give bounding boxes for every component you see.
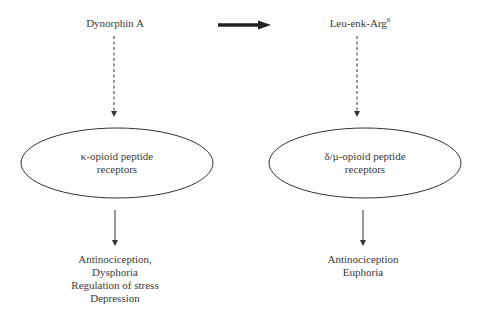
kappa-receptor-line1: κ-opioid peptide (57, 150, 177, 163)
delta-mu-receptor-label: δ/μ-opioid peptide receptors (305, 150, 425, 176)
leu-enk-arg-superscript: 6 (387, 16, 391, 24)
leu-enk-arg6-label: Leu-enk-Arg6 (305, 17, 415, 30)
delta-mu-receptor-line1: δ/μ-opioid peptide (305, 150, 425, 163)
effect-item: Euphoria (298, 266, 428, 279)
effect-item: Antinociception, (50, 253, 180, 266)
dynorphin-a-label: Dynorphin A (65, 17, 165, 30)
solid-arrow-right (360, 210, 366, 246)
effect-item: Dysphoria (50, 266, 180, 279)
delta-mu-effects-list: Antinociception Euphoria (298, 253, 428, 279)
dashed-arrow-right (354, 36, 360, 117)
kappa-effects-list: Antinociception, Dysphoria Regulation of… (50, 253, 180, 305)
delta-mu-receptor-line2: receptors (305, 163, 425, 176)
conversion-arrow (218, 21, 271, 30)
dashed-arrow-left (111, 36, 117, 117)
effect-item: Regulation of stress (50, 279, 180, 292)
solid-arrow-left (112, 210, 118, 246)
effect-item: Depression (50, 292, 180, 305)
kappa-receptor-line2: receptors (57, 163, 177, 176)
leu-enk-arg-base: Leu-enk-Arg (330, 17, 387, 29)
effect-item: Antinociception (298, 253, 428, 266)
kappa-receptor-label: κ-opioid peptide receptors (57, 150, 177, 176)
